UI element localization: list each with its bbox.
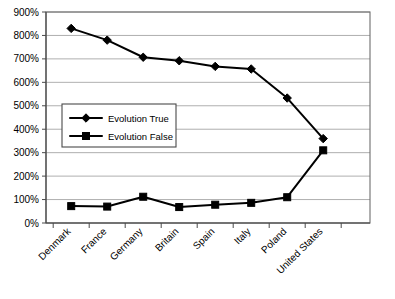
y-tick-label: 100% xyxy=(13,194,39,205)
data-point-marker xyxy=(103,36,111,44)
data-point-marker xyxy=(175,57,183,65)
y-axis-ticks: 0%100%200%300%400%500%600%700%800%900% xyxy=(13,7,46,229)
data-point-marker xyxy=(67,24,75,32)
chart-legend: Evolution TrueEvolution False xyxy=(62,104,176,147)
x-tick-label: Britain xyxy=(153,226,181,254)
data-point-marker xyxy=(284,194,291,201)
y-tick-label: 800% xyxy=(13,30,39,41)
data-point-marker xyxy=(248,199,255,206)
data-point-marker xyxy=(211,62,219,70)
x-axis-labels: DenmarkFranceGermanyBritainSpainItalyPol… xyxy=(36,225,324,276)
chart-container: 0%100%200%300%400%500%600%700%800%900% D… xyxy=(0,0,395,299)
data-point-marker xyxy=(140,193,147,200)
x-tick-label: Italy xyxy=(232,226,253,247)
x-tick-label: Denmark xyxy=(36,225,73,262)
data-point-marker xyxy=(320,147,327,154)
y-tick-label: 400% xyxy=(13,124,39,135)
x-tick-label: France xyxy=(79,225,109,255)
x-tick-label: Germany xyxy=(108,226,145,263)
y-tick-label: 900% xyxy=(13,7,39,18)
legend-label: Evolution False xyxy=(108,131,173,142)
y-tick-label: 200% xyxy=(13,171,39,182)
y-tick-label: 0% xyxy=(25,218,40,229)
y-tick-label: 700% xyxy=(13,53,39,64)
data-point-marker xyxy=(176,204,183,211)
data-point-marker xyxy=(68,203,75,210)
x-tick-label: Spain xyxy=(191,226,217,252)
legend-label: Evolution True xyxy=(108,113,169,124)
data-point-marker xyxy=(139,53,147,61)
y-tick-label: 300% xyxy=(13,147,39,158)
data-point-marker xyxy=(212,201,219,208)
legend-swatch-marker xyxy=(83,133,90,140)
y-tick-label: 600% xyxy=(13,77,39,88)
y-tick-label: 500% xyxy=(13,100,39,111)
line-chart: 0%100%200%300%400%500%600%700%800%900% D… xyxy=(0,0,395,299)
data-point-marker xyxy=(104,203,111,210)
x-tick-label: Poland xyxy=(259,226,289,256)
x-axis-ticks xyxy=(53,223,341,228)
